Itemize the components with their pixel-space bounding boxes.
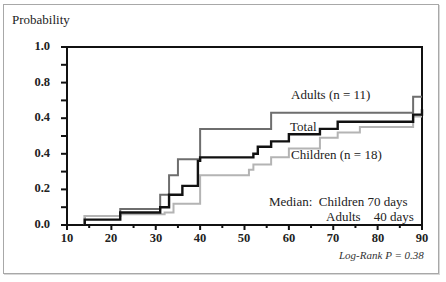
total-curve-label: Total (290, 119, 317, 135)
adults-curve-label: Adults (n = 11) (291, 87, 370, 103)
plot-area (0, 0, 446, 282)
median-adults-text: Adults 40 days (326, 209, 414, 225)
median-children-text: Median: Children 70 days (269, 194, 408, 210)
children-curve-label: Children (n = 18) (291, 147, 382, 163)
logrank-p-value: Log-Rank P = 0.38 (339, 249, 424, 261)
